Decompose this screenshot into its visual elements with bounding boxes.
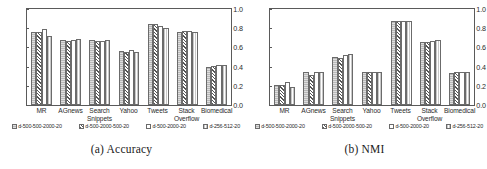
bar-group — [177, 9, 198, 105]
legend-item: d-500-2000-500-20 — [79, 123, 129, 129]
bar-group — [206, 9, 227, 105]
bar — [377, 72, 382, 105]
bar-group — [119, 9, 140, 105]
plot-area-accuracy: 0.00.20.40.60.81.0 MRAGnewsSearch Snippe… — [0, 4, 243, 124]
bar-group — [31, 9, 52, 105]
y-tick-mark — [26, 105, 29, 106]
bar-group — [60, 9, 81, 105]
legend-swatch-icon — [146, 124, 151, 129]
legend-item: d-256-512-20 — [203, 123, 240, 129]
legend-swatch-icon — [79, 124, 84, 129]
bar — [465, 72, 470, 105]
bar — [105, 40, 110, 105]
legend-nmi: d-500-500-2000-20d-500-2000-500-20d-500-… — [255, 123, 483, 129]
legend-label: d-500-2000-20 — [152, 123, 185, 129]
bar — [222, 65, 227, 105]
legend-swatch-icon — [203, 124, 208, 129]
legend-label: d-256-512-20 — [452, 123, 483, 129]
bar-group — [148, 9, 169, 105]
panel-accuracy: 0.00.20.40.60.81.0 MRAGnewsSearch Snippe… — [0, 0, 243, 169]
panel-nmi: 0.00.20.40.60.81.0 MRAGnewsSearch Snippe… — [243, 0, 486, 169]
legend-swatch-icon — [12, 124, 17, 129]
legend-item: d-500-2000-500-20 — [322, 123, 372, 129]
bar — [348, 54, 353, 105]
legend-swatch-icon — [446, 124, 451, 129]
plot-area-nmi: 0.00.20.40.60.81.0 MRAGnewsSearch Snippe… — [243, 4, 486, 124]
bar — [134, 52, 139, 105]
bar-group — [362, 9, 383, 105]
bar — [192, 32, 197, 105]
caption-accuracy: (a) Accuracy — [0, 143, 243, 155]
y-tick-mark — [269, 105, 272, 106]
legend-item: d-500-500-2000-20 — [255, 123, 305, 129]
bars-layer-nmi — [270, 9, 474, 105]
bar-group — [89, 9, 110, 105]
bar — [406, 21, 411, 105]
legend-label: d-500-2000-20 — [395, 123, 428, 129]
bar — [163, 28, 168, 105]
legend-item: d-256-512-20 — [446, 123, 483, 129]
legend-label: d-500-2000-500-20 — [328, 123, 372, 129]
bar — [47, 36, 52, 105]
legend-accuracy: d-500-500-2000-20d-500-2000-500-20d-500-… — [12, 123, 240, 129]
figure-two-panel-bar-charts: 0.00.20.40.60.81.0 MRAGnewsSearch Snippe… — [0, 0, 487, 169]
legend-label: d-500-500-2000-20 — [18, 123, 62, 129]
bar-group — [420, 9, 441, 105]
legend-label: d-256-512-20 — [209, 123, 240, 129]
legend-swatch-icon — [389, 124, 394, 129]
bar — [290, 87, 295, 105]
bar-group — [449, 9, 470, 105]
legend-label: d-500-500-2000-20 — [261, 123, 305, 129]
bar — [76, 39, 81, 105]
caption-nmi: (b) NMI — [243, 143, 486, 155]
legend-item: d-500-2000-20 — [146, 123, 186, 129]
bar-group — [391, 9, 412, 105]
legend-item: d-500-2000-20 — [389, 123, 429, 129]
bars-layer-accuracy — [27, 9, 231, 105]
bar — [435, 40, 440, 105]
legend-label: d-500-2000-500-20 — [85, 123, 129, 129]
bar-group — [303, 9, 324, 105]
bar-group — [274, 9, 295, 105]
bar-group — [332, 9, 353, 105]
legend-swatch-icon — [255, 124, 260, 129]
legend-swatch-icon — [322, 124, 327, 129]
bar — [319, 72, 324, 105]
legend-item: d-500-500-2000-20 — [12, 123, 62, 129]
